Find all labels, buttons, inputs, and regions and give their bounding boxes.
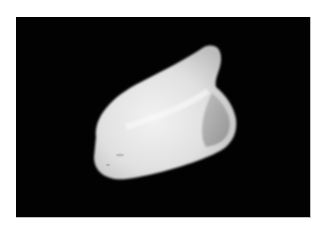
photograph <box>16 17 311 218</box>
tooth-specimen <box>16 17 311 218</box>
